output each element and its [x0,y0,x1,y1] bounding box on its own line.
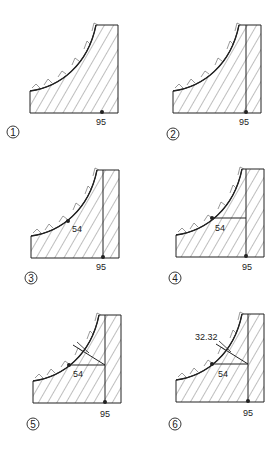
step-2-marker: 2 [167,128,179,140]
panel-6-tangent-label: 32.32 [195,332,218,342]
svg-text:1: 1 [10,127,16,138]
panel-2-base-label: 95 [239,117,249,127]
svg-text:6: 6 [172,419,178,430]
svg-text:5: 5 [30,419,36,430]
panel-5-point-label: 54 [73,369,83,379]
svg-text:3: 3 [28,273,34,284]
panel-3-point-label: 54 [72,224,82,234]
panel-1-base-label: 95 [96,117,106,127]
step-1-marker: 1 [7,126,19,138]
panel-5-base-label: 95 [100,409,110,419]
panel-2 [173,23,261,114]
svg-text:2: 2 [170,129,176,140]
panel-6-base-label: 95 [243,408,253,418]
step-6-marker: 6 [169,418,181,430]
panel-6 [176,312,264,403]
step-4-marker: 4 [169,272,181,284]
panel-6-point-label: 54 [218,369,228,379]
diagram-canvas: 95 1 95 2 54 95 3 54 95 4 [0,0,279,449]
panel-3 [31,168,119,259]
panel-3-base-label: 95 [96,262,106,272]
step-5-marker: 5 [27,418,39,430]
panel-5 [33,313,121,404]
panel-1 [30,23,118,114]
svg-text:4: 4 [172,273,178,284]
step-3-marker: 3 [25,272,37,284]
panel-4 [176,167,264,258]
panel-4-point-label: 54 [215,223,225,233]
panel-4-base-label: 95 [242,262,252,272]
